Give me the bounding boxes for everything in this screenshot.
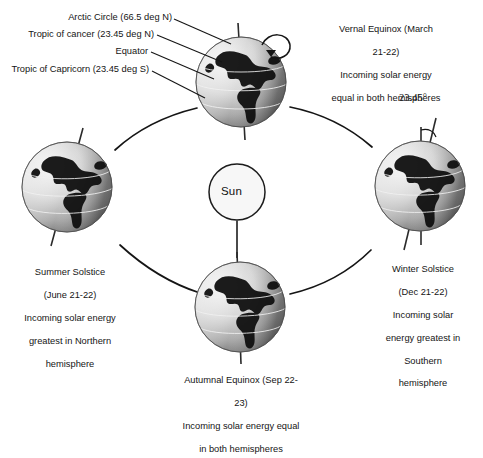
globe-autumnal-equinox <box>195 252 286 364</box>
winter-line-2: (Dec 21-22) <box>365 287 481 298</box>
summer-line-4: greatest in Northern <box>2 336 138 347</box>
vernal-line-2: 21-22) <box>292 47 480 58</box>
winter-line-4: energy greatest in <box>365 333 481 344</box>
label-tropic-of-capricorn: Tropic of Capricorn (23.45 deg S) <box>6 64 149 75</box>
sun-label: Sun <box>221 185 242 197</box>
label-tropic-of-cancer: Tropic of cancer (23.45 deg N) <box>6 29 154 40</box>
winter-line-6: hemisphere <box>365 378 481 389</box>
orbit-arc-lower-right <box>290 250 371 294</box>
autumnal-line-3: Incoming solar energy equal <box>151 421 331 432</box>
label-vernal-equinox: Vernal Equinox (March 21-22) Incoming so… <box>292 13 480 116</box>
autumnal-line-4: in both hemispheres <box>151 444 331 455</box>
vernal-line-3: Incoming solar energy <box>292 70 480 81</box>
autumnal-line-2: 23) <box>151 398 331 409</box>
globe-winter-solstice <box>375 118 466 250</box>
vernal-line-1: Vernal Equinox (March <box>292 24 480 35</box>
label-arctic-circle: Arctic Circle (66.5 deg N) <box>6 12 172 23</box>
winter-line-3: Incoming solar <box>365 310 481 321</box>
summer-line-3: Incoming solar energy <box>2 313 138 324</box>
leader-arctic-circle <box>174 19 231 44</box>
summer-line-1: Summer Solstice <box>2 267 138 278</box>
label-equator: Equator <box>6 46 148 57</box>
winter-line-1: Winter Solstice <box>365 264 481 275</box>
label-summer-solstice: Summer Solstice (June 21-22) Incoming so… <box>2 256 138 381</box>
label-autumnal-equinox: Autumnal Equinox (Sep 22- 23) Incoming s… <box>151 364 331 458</box>
label-winter-solstice: Winter Solstice (Dec 21-22) Incoming sol… <box>365 253 481 401</box>
autumnal-line-1: Autumnal Equinox (Sep 22- <box>151 375 331 386</box>
globe-vernal-equinox <box>196 23 290 140</box>
orbit-arc-upper-left <box>115 108 197 150</box>
summer-line-5: hemisphere <box>2 359 138 370</box>
vernal-line-4: equal in both hemispheres <box>292 93 480 104</box>
summer-line-2: (June 21-22) <box>2 290 138 301</box>
winter-line-5: Southern <box>365 356 481 367</box>
globe-summer-solstice <box>22 128 113 246</box>
